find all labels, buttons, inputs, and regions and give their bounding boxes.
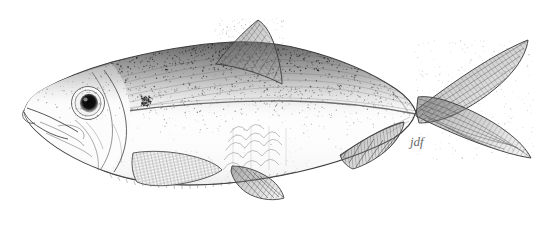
fish-illustration-svg: jdf [0,0,539,234]
artist-signature: jdf [408,134,426,149]
pupil [80,94,98,112]
signature-text: jdf [408,134,426,149]
illustration-plate: jdf [0,0,539,234]
